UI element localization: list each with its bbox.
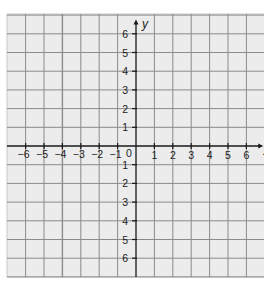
x-tick-label: −1 [110,148,122,160]
x-tick-label: −6 [18,148,30,160]
y-tick-label: 4 [122,215,128,227]
y-tick-label: 1 [122,121,128,133]
x-tick-label: −2 [91,148,103,160]
y-tick-label: 5 [122,234,128,246]
x-tick-label: 5 [225,149,231,161]
y-tick-label: 4 [122,65,128,77]
y-tick-label: 3 [122,84,128,96]
x-tick-label: 6 [243,149,249,161]
origin-label: 0 [126,147,132,159]
y-tick-label: 6 [122,28,128,40]
x-tick-label: −3 [73,148,85,160]
x-tick-label: −4 [54,148,66,160]
x-axis-label: x [262,144,264,158]
y-tick-label: 2 [122,103,128,115]
y-tick-label: 1 [122,159,128,171]
y-axis-label: y [141,17,149,31]
y-tick-label: 5 [122,47,128,59]
x-tick-label: 2 [170,149,176,161]
y-tick-label: 2 [122,177,128,189]
x-tick-label: 3 [188,149,194,161]
x-tick-label: 4 [207,149,213,161]
coordinate-plane: −6−5−4−3−2−10123456123456123456xy [0,0,264,281]
coordinate-grid-figure: −6−5−4−3−2−10123456123456123456xy [0,0,264,281]
x-tick-label: −5 [36,148,48,160]
y-tick-label: 3 [122,196,128,208]
x-tick-label: 1 [151,149,157,161]
y-tick-label: 6 [122,252,128,264]
